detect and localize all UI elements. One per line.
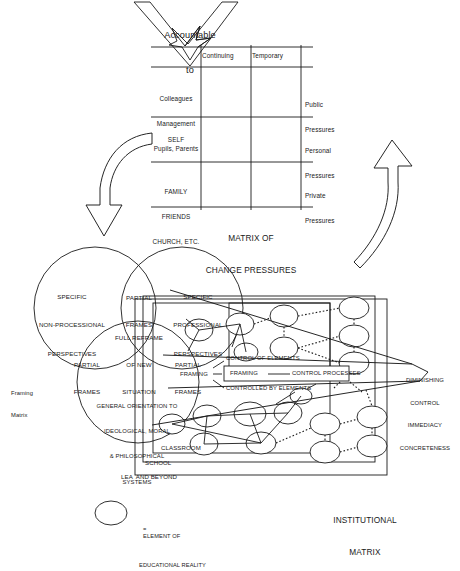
table-row-label-self: SELF	[148, 136, 204, 144]
arrow-institutional-to-table	[354, 140, 412, 268]
control-processes-label: CONTROL PROCESSES	[292, 370, 361, 378]
accountable-to-line2: to	[142, 65, 238, 77]
private-line1: Private	[305, 192, 335, 200]
inst-title-line2: MATRIX	[305, 547, 425, 558]
arrow-table-to-framing-matrix	[86, 133, 152, 236]
matrix-title-line2: CHANGE PRESSURES	[181, 265, 321, 276]
table-row-label-colleagues: Colleagues Management Pupils, Parents	[148, 79, 204, 169]
gradient-line4: CONCRETENESS	[390, 445, 460, 453]
legend-oval	[95, 501, 127, 525]
inst-title-line1: INSTITUTIONAL	[305, 515, 425, 526]
legend-element-of: ELEMENT OF	[143, 533, 180, 539]
legend-equals: =	[143, 526, 146, 532]
venn-bottom-line2: IDEOLOGICAL, MORAL	[82, 428, 192, 436]
institutional-level-classroom: CLASSROOM	[161, 444, 201, 452]
framing-label-in-box: FRAMING	[230, 370, 258, 378]
venn-left-line1: SPECIFIC	[26, 293, 118, 301]
overlap-top-line1: PARTIAL	[114, 294, 164, 302]
row1-line2: Management	[148, 120, 204, 128]
accountable-to-line1: Accountable	[142, 30, 238, 42]
venn-center-line2: OF NEW	[107, 361, 171, 369]
control-of-elements-label: CONTROL OF ELEMENTS	[226, 355, 300, 363]
framing-caption-line1: Framing	[11, 390, 33, 397]
institutional-level-school: SCHOOL	[145, 459, 171, 467]
public-line1: Public	[305, 101, 335, 109]
gradient-line1: DIMINISHING	[390, 377, 460, 385]
table-column-header-temporary: Temporary	[252, 52, 300, 60]
gradient-labels: DIMINISHING CONTROL IMMEDIACY CONCRETENE…	[390, 362, 460, 468]
row1-line3: Pupils, Parents	[148, 145, 204, 153]
venn-left-line2: NON-PROCESSIONAL	[26, 321, 118, 329]
gradient-line3: IMMEDIACY	[390, 422, 460, 430]
legend-line1: = ELEMENT OF	[133, 519, 206, 548]
overlap-right-line1: PARTIAL	[164, 361, 212, 369]
legend-text: = ELEMENT OF EDUCATIONAL REALITY	[133, 504, 206, 571]
gradient-line2: CONTROL	[390, 400, 460, 408]
framing-caption-line2: Matrix	[11, 412, 33, 419]
overlap-left-line1: PARTIAL	[63, 361, 111, 369]
controlled-by-elements-label: CONTROLLED BY ELEMENTS	[226, 385, 311, 393]
institutional-matrix-title: INSTITUTIONAL MATRIX	[305, 494, 425, 571]
matrix-title-line1: MATRIX OF	[181, 233, 321, 244]
venn-right-line1: SPECIFIC	[158, 293, 238, 301]
legend-educational-reality: EDUCATIONAL REALITY	[139, 562, 206, 569]
row1-line1: Colleagues	[148, 95, 204, 103]
row3-line1: FAMILY	[146, 188, 206, 196]
table-column-header-continuing: Continuing	[202, 52, 250, 60]
framing-node-label: FRAMING	[180, 371, 208, 379]
venn-center-line1: FULL REFRAME	[107, 334, 171, 342]
venn-bottom-line1: GENERAL ORIENTATION TO	[82, 403, 192, 411]
framing-matrix-caption: Framing Matrix	[11, 375, 33, 434]
institutional-level-lea: LEA AND BEYOND	[121, 473, 177, 481]
venn-bottom-line3: & PHILOSOPHICAL	[82, 453, 192, 461]
personal-line1: Personal	[305, 147, 335, 155]
